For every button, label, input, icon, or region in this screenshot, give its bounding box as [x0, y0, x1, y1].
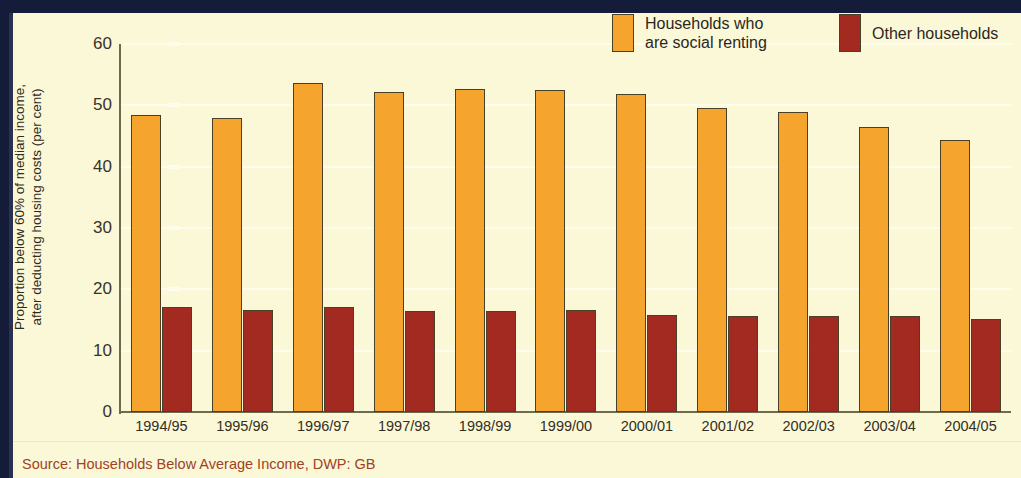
bar-social-renting: [940, 140, 970, 412]
bar-other-households: [162, 307, 192, 412]
x-axis-tick-label: 2003/04: [849, 418, 930, 434]
bar-group: [202, 44, 283, 412]
x-axis-tick-label: 2004/05: [930, 418, 1011, 434]
footer-divider: [13, 441, 1021, 442]
bar-other-households: [243, 310, 273, 412]
bar-other-households: [890, 316, 920, 412]
x-axis-tick-label: 1996/97: [283, 418, 364, 434]
bar-group: [606, 44, 687, 412]
bar-group: [930, 44, 1011, 412]
source-note: Source: Households Below Average Income,…: [22, 456, 376, 472]
legend-swatch-other: [839, 14, 861, 52]
y-axis-tick-label: 60: [66, 34, 112, 54]
y-axis-tick-label: 50: [66, 95, 112, 115]
chart-legend: Households who are social rentingOther h…: [612, 14, 1012, 62]
x-axis-tick-label: 2002/03: [768, 418, 849, 434]
bar-group: [768, 44, 849, 412]
legend-label-social: Households who are social renting: [645, 14, 767, 52]
bar-social-renting: [616, 94, 646, 412]
bar-groups: [121, 44, 1011, 412]
bar-social-renting: [293, 83, 323, 412]
bar-social-renting: [778, 112, 808, 412]
x-axis-tick-labels: 1994/951995/961996/971997/981998/991999/…: [121, 418, 1011, 442]
bar-other-households: [566, 310, 596, 412]
bar-group: [687, 44, 768, 412]
bar-social-renting: [455, 89, 485, 412]
y-axis-tick-label: 0: [66, 402, 112, 422]
bar-social-renting: [859, 127, 889, 412]
bar-group: [526, 44, 607, 412]
bar-group: [445, 44, 526, 412]
bar-social-renting: [212, 118, 242, 412]
bar-social-renting: [131, 115, 161, 412]
bar-social-renting: [374, 92, 404, 412]
x-axis-tick-label: 1999/00: [526, 418, 607, 434]
x-axis-tick-label: 1995/96: [202, 418, 283, 434]
y-axis-tick-labels: 0102030405060: [56, 44, 112, 412]
bar-other-households: [405, 311, 435, 412]
decorative-top-band: [0, 0, 1021, 13]
bar-social-renting: [535, 90, 565, 412]
x-axis-tick-label: 2001/02: [687, 418, 768, 434]
y-axis-tick-label: 40: [66, 157, 112, 177]
bar-other-households: [971, 319, 1001, 412]
bar-other-households: [728, 316, 758, 412]
x-axis-tick-label: 1997/98: [364, 418, 445, 434]
x-axis-tick-label: 1998/99: [445, 418, 526, 434]
legend-swatch-social: [612, 14, 634, 52]
bar-other-households: [324, 307, 354, 412]
legend-label-other: Other households: [872, 24, 998, 43]
legend-item-social: Households who are social renting: [612, 14, 767, 52]
bar-group: [121, 44, 202, 412]
bar-other-households: [486, 311, 516, 412]
legend-item-other: Other households: [839, 14, 998, 52]
bar-other-households: [647, 315, 677, 412]
bar-group: [364, 44, 445, 412]
y-axis-tick-label: 20: [66, 279, 112, 299]
decorative-left-band: [0, 0, 9, 478]
chart-figure: Proportion below 60% of median income, a…: [0, 0, 1021, 478]
y-axis-title: Proportion below 60% of median income, a…: [11, 37, 45, 377]
bar-social-renting: [697, 108, 727, 412]
bar-group: [283, 44, 364, 412]
bar-other-households: [809, 316, 839, 412]
x-axis-tick-label: 1994/95: [121, 418, 202, 434]
y-axis-tick-label: 30: [66, 218, 112, 238]
x-axis-tick-label: 2000/01: [606, 418, 687, 434]
bar-group: [849, 44, 930, 412]
y-axis-tick-label: 10: [66, 341, 112, 361]
